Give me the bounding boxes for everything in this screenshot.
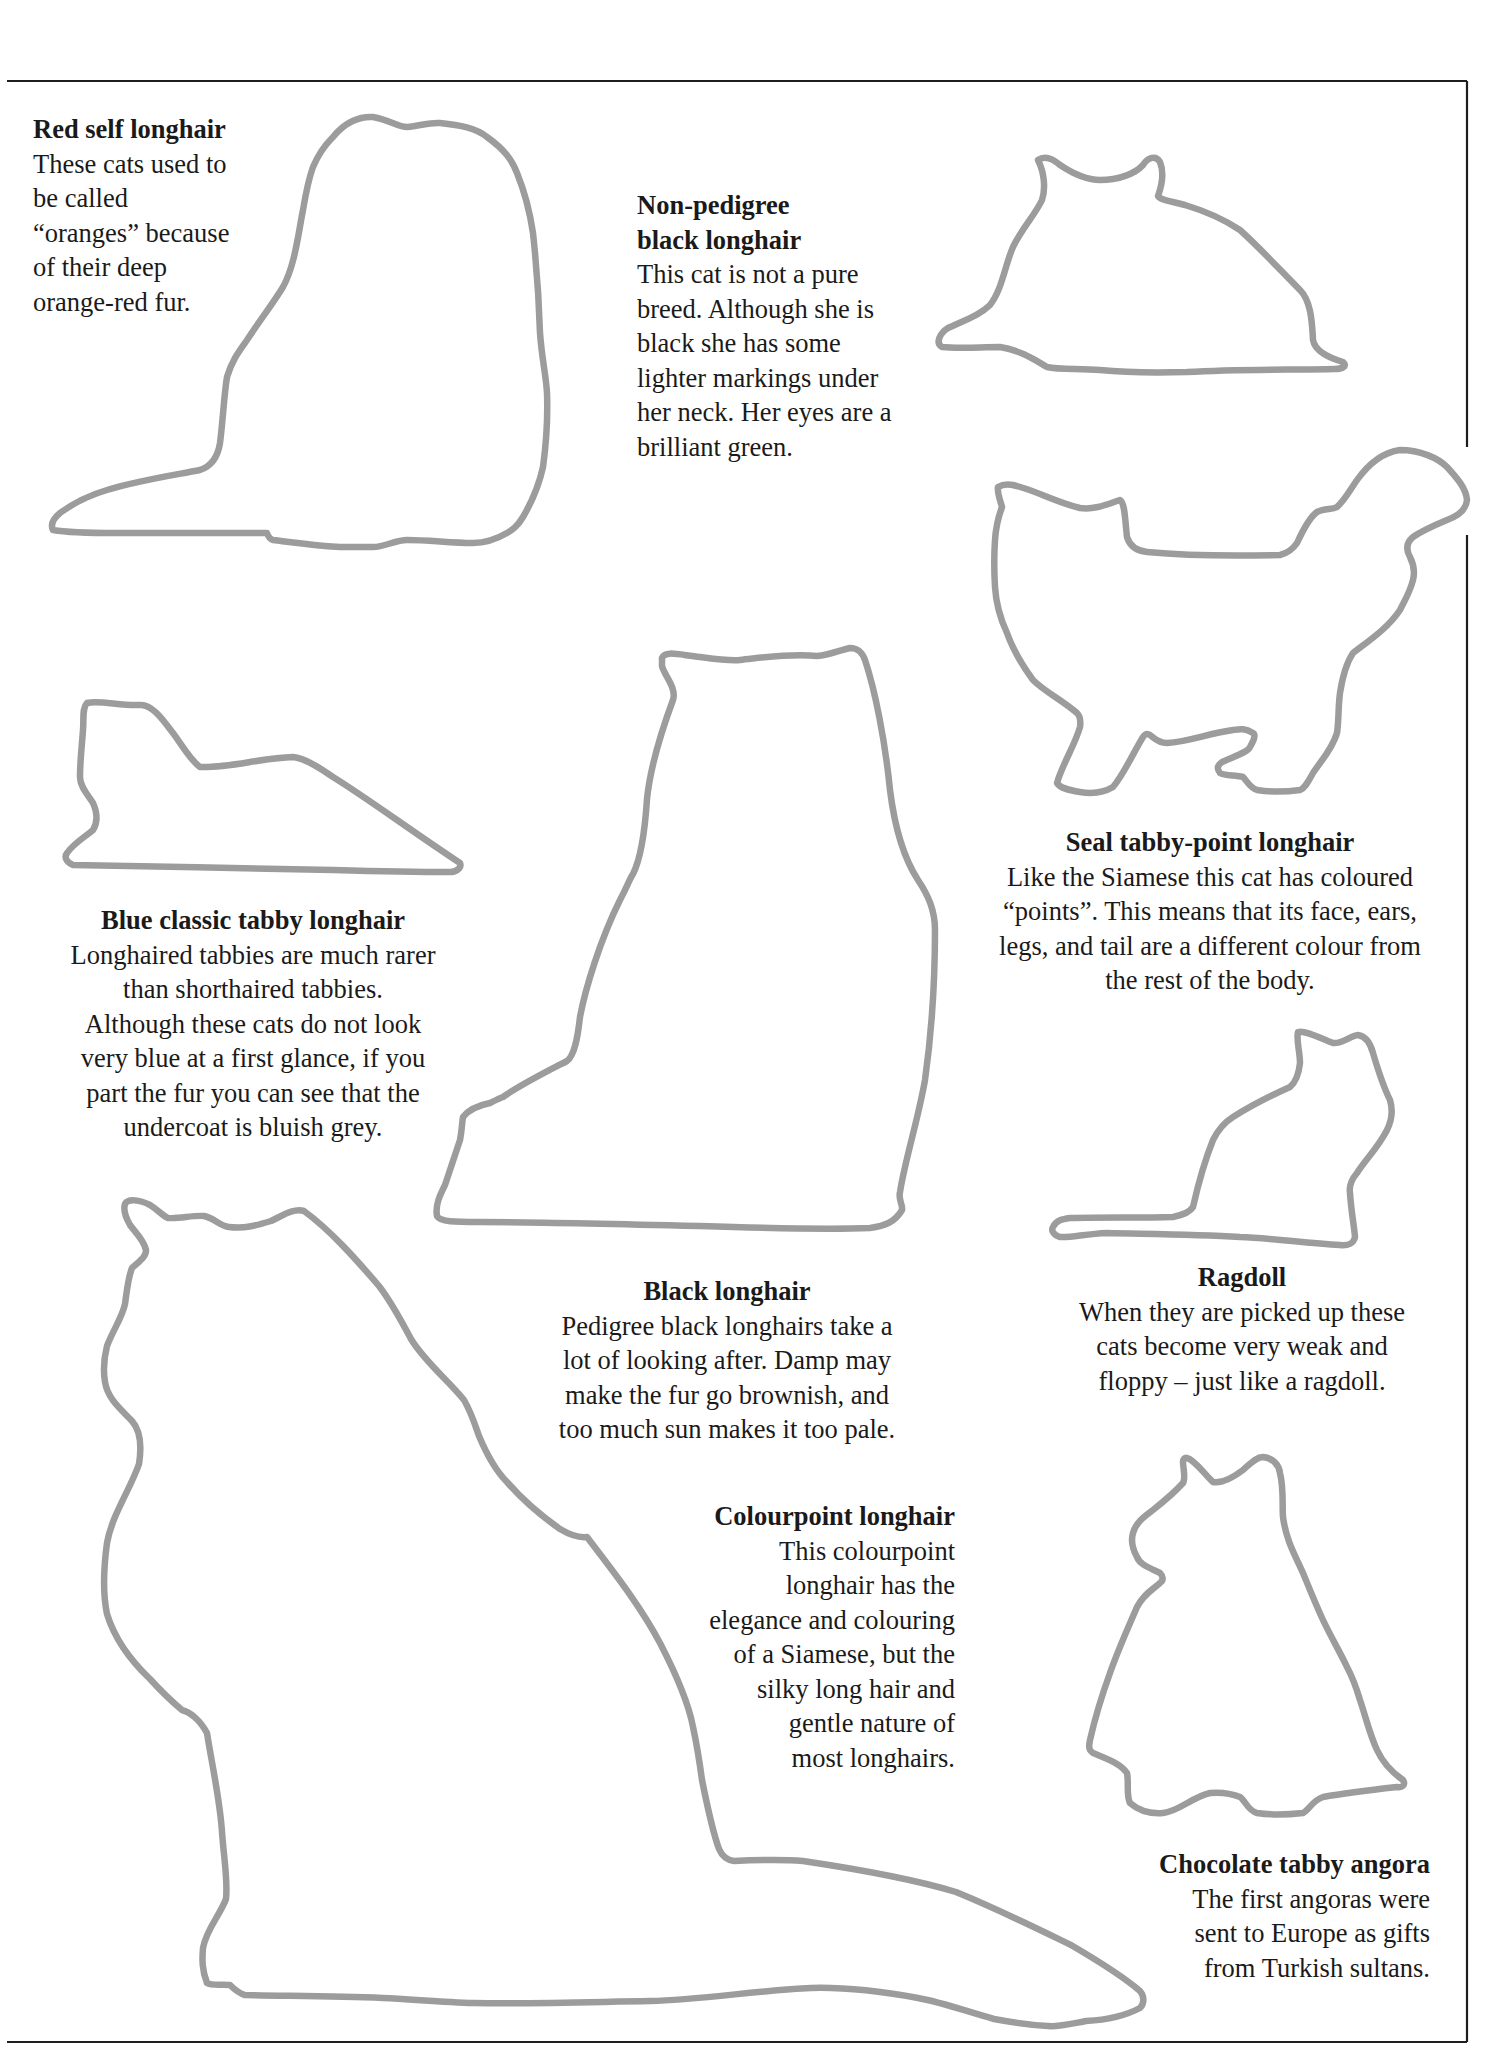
caption-line: very blue at a first glance, if you xyxy=(23,1041,483,1076)
caption-line: her neck. Her eyes are a xyxy=(637,395,937,430)
caption-line: make the fur go brownish, and xyxy=(517,1378,937,1413)
caption-line: undercoat is bluish grey. xyxy=(23,1110,483,1145)
caption-colourpoint-longhair: Colourpoint longhair This colourpoint lo… xyxy=(655,1499,955,1775)
caption-line: longhair has the xyxy=(655,1568,955,1603)
caption-line: of a Siamese, but the xyxy=(655,1637,955,1672)
caption-line: legs, and tail are a different colour fr… xyxy=(960,929,1460,964)
caption-line: than shorthaired tabbies. xyxy=(23,972,483,1007)
caption-non-pedigree-black-longhair: Non-pedigree black longhair This cat is … xyxy=(637,188,937,464)
caption-seal-tabby-point-longhair: Seal tabby-point longhair Like the Siame… xyxy=(960,825,1460,998)
caption-line: sent to Europe as gifts xyxy=(1110,1916,1430,1951)
caption-line: floppy – just like a ragdoll. xyxy=(1052,1364,1432,1399)
caption-line: brilliant green. xyxy=(637,430,937,465)
caption-title: Red self longhair xyxy=(33,112,263,147)
caption-line: The first angoras were xyxy=(1110,1882,1430,1917)
caption-line: This cat is not a pure xyxy=(637,257,937,292)
caption-line: “points”. This means that its face, ears… xyxy=(960,894,1460,929)
caption-black-longhair: Black longhair Pedigree black longhairs … xyxy=(517,1274,937,1447)
ragdoll-outline xyxy=(1052,1032,1391,1246)
caption-blue-classic-tabby-longhair: Blue classic tabby longhair Longhaired t… xyxy=(23,903,483,1145)
caption-line: the rest of the body. xyxy=(960,963,1460,998)
blue-classic-tabby-longhair-outline xyxy=(66,702,461,872)
caption-title: black longhair xyxy=(637,223,937,258)
caption-line: part the fur you can see that the xyxy=(23,1076,483,1111)
caption-line: lot of looking after. Damp may xyxy=(517,1343,937,1378)
caption-line: most longhairs. xyxy=(655,1741,955,1776)
caption-title: Black longhair xyxy=(517,1274,937,1309)
caption-title: Ragdoll xyxy=(1052,1260,1432,1295)
caption-line: These cats used to xyxy=(33,147,263,182)
caption-line: lighter markings under xyxy=(637,361,937,396)
caption-title: Colourpoint longhair xyxy=(655,1499,955,1534)
caption-title: Chocolate tabby angora xyxy=(1110,1847,1430,1882)
caption-line: of their deep xyxy=(33,250,263,285)
caption-line: from Turkish sultans. xyxy=(1110,1951,1430,1986)
caption-line: elegance and colouring xyxy=(655,1603,955,1638)
caption-title: Non-pedigree xyxy=(637,188,937,223)
caption-line: too much sun makes it too pale. xyxy=(517,1412,937,1447)
caption-ragdoll: Ragdoll When they are picked up these ca… xyxy=(1052,1260,1432,1398)
caption-line: cats become very weak and xyxy=(1052,1329,1432,1364)
chocolate-tabby-angora-outline xyxy=(1089,1457,1404,1815)
black-longhair-outline xyxy=(437,648,935,1229)
caption-line: When they are picked up these xyxy=(1052,1295,1432,1330)
caption-line: Although these cats do not look xyxy=(23,1007,483,1042)
caption-line: Longhaired tabbies are much rarer xyxy=(23,938,483,973)
caption-title: Seal tabby-point longhair xyxy=(960,825,1460,860)
caption-line: silky long hair and xyxy=(655,1672,955,1707)
caption-line: be called xyxy=(33,181,263,216)
non-pedigree-black-longhair-outline xyxy=(939,158,1345,373)
caption-chocolate-tabby-angora: Chocolate tabby angora The first angoras… xyxy=(1110,1847,1430,1985)
caption-line: “oranges” because xyxy=(33,216,263,251)
caption-line: This colourpoint xyxy=(655,1534,955,1569)
caption-line: Like the Siamese this cat has coloured xyxy=(960,860,1460,895)
caption-line: black she has some xyxy=(637,326,937,361)
caption-line: Pedigree black longhairs take a xyxy=(517,1309,937,1344)
caption-line: breed. Although she is xyxy=(637,292,937,327)
caption-line: gentle nature of xyxy=(655,1706,955,1741)
caption-title: Blue classic tabby longhair xyxy=(23,903,483,938)
caption-red-self-longhair: Red self longhair These cats used to be … xyxy=(33,112,263,319)
seal-tabby-point-longhair-outline xyxy=(994,450,1467,793)
caption-line: orange-red fur. xyxy=(33,285,263,320)
